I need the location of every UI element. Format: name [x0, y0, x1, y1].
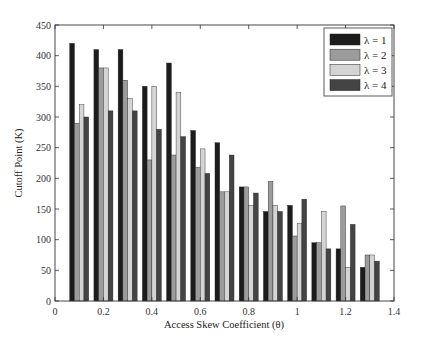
x-tick-label: 0.4 — [146, 306, 159, 317]
bar — [350, 224, 355, 301]
bar — [79, 105, 84, 301]
x-axis-label: Access Skew Coefficient (θ) — [164, 319, 285, 331]
bar — [74, 123, 79, 301]
legend-label: λ = 4 — [364, 79, 387, 91]
bar — [360, 267, 365, 301]
y-axis-label: Cutoff Point (K) — [13, 128, 25, 198]
bar — [263, 211, 268, 301]
bar — [312, 243, 317, 301]
bar — [268, 181, 273, 301]
bar — [341, 206, 346, 301]
bar — [321, 211, 326, 301]
bar — [273, 205, 278, 301]
bar — [118, 50, 123, 301]
legend-swatch — [330, 80, 360, 91]
bar — [176, 92, 181, 301]
legend-entry: λ = 2 — [330, 49, 387, 61]
bar-group — [239, 187, 258, 301]
y-tick-label: 50 — [41, 265, 51, 276]
bar — [84, 117, 89, 301]
bar — [346, 267, 351, 301]
legend-entry: λ = 3 — [330, 64, 387, 76]
legend: λ = 1λ = 2λ = 3λ = 4 — [324, 28, 392, 96]
bar — [94, 50, 99, 301]
bar — [152, 86, 157, 301]
bar — [171, 155, 176, 301]
bar — [205, 173, 210, 301]
bar — [288, 205, 293, 301]
bar — [370, 255, 375, 301]
bar — [157, 129, 162, 301]
bar — [99, 68, 104, 301]
bar-chart: 00.20.40.60.811.21.4 0501001502002503003… — [0, 0, 422, 347]
bar — [244, 187, 249, 301]
x-tick-label: 1 — [295, 306, 300, 317]
bar — [196, 167, 201, 301]
bar — [215, 143, 220, 301]
bar — [292, 236, 297, 301]
bar — [108, 111, 113, 301]
bar — [103, 68, 108, 301]
legend-entry: λ = 1 — [330, 34, 387, 46]
bar — [336, 249, 341, 301]
y-tick-label: 100 — [36, 234, 51, 245]
x-tick-label: 1.4 — [388, 306, 401, 317]
legend-swatch — [330, 34, 360, 45]
bar — [70, 43, 75, 301]
bar — [326, 249, 331, 301]
bar — [132, 111, 137, 301]
legend-swatch — [330, 49, 360, 60]
bar — [278, 211, 283, 301]
bar — [200, 149, 205, 301]
bar — [249, 205, 254, 301]
x-tick-label: 1.2 — [339, 306, 352, 317]
y-tick-label: 150 — [36, 204, 51, 215]
y-tick-label: 200 — [36, 173, 51, 184]
bar — [365, 255, 370, 301]
bar — [142, 86, 147, 301]
x-tick-label: 0.2 — [97, 306, 110, 317]
bar — [229, 155, 234, 301]
bar — [239, 187, 244, 301]
y-tick-label: 250 — [36, 142, 51, 153]
y-tick-label: 400 — [36, 50, 51, 61]
bar — [167, 63, 172, 301]
legend-entry: λ = 4 — [330, 79, 387, 91]
x-tick-label: 0.8 — [242, 306, 255, 317]
legend-label: λ = 2 — [364, 49, 387, 61]
x-tick-label: 0.6 — [194, 306, 207, 317]
bar — [317, 243, 322, 301]
bar — [147, 160, 152, 301]
bar — [225, 192, 230, 301]
bar — [297, 224, 302, 301]
bar — [191, 130, 196, 301]
bar — [220, 192, 225, 301]
bar — [253, 193, 258, 301]
legend-swatch — [330, 64, 360, 75]
y-tick-label: 350 — [36, 81, 51, 92]
y-tick-label: 450 — [36, 20, 51, 31]
legend-label: λ = 3 — [364, 64, 387, 76]
bar — [181, 137, 186, 301]
y-tick-label: 300 — [36, 112, 51, 123]
bar — [375, 261, 380, 301]
bar — [302, 199, 307, 301]
bar — [123, 80, 128, 301]
x-tick-label: 0 — [53, 306, 58, 317]
y-tick-label: 0 — [46, 296, 51, 307]
legend-label: λ = 1 — [364, 34, 387, 46]
bar — [128, 99, 133, 301]
